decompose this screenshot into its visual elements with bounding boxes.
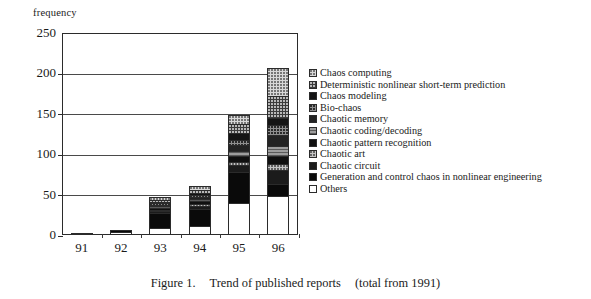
legend-item[interactable]: Chaotic circuit bbox=[309, 160, 587, 172]
x-axis-tickmark-96 bbox=[299, 234, 300, 238]
x-axis-tick-labels: 919293949596 bbox=[62, 240, 298, 262]
y-axis-tick-0: 0 bbox=[22, 228, 56, 241]
legend-swatch-icon bbox=[309, 127, 317, 135]
caption-label: Figure 1. bbox=[151, 276, 196, 290]
legend-item-label: Generation and control chaos in nonlinea… bbox=[320, 171, 542, 183]
legend-item-label: Chaotic coding/decoding bbox=[320, 125, 422, 137]
y-axis-tick-labels: 050100150200250 bbox=[20, 33, 56, 235]
legend-swatch-icon bbox=[309, 81, 317, 89]
legend-item[interactable]: Chaotic coding/decoding bbox=[309, 125, 587, 137]
legend-item-label: Chaotic pattern recognition bbox=[320, 137, 431, 149]
bar-segment bbox=[268, 157, 288, 166]
legend-item[interactable]: Bio-chaos bbox=[309, 102, 587, 114]
bar-segment bbox=[229, 173, 249, 204]
bar-segment bbox=[268, 185, 288, 197]
x-axis-tick-94: 94 bbox=[180, 240, 220, 255]
legend-swatch-icon bbox=[309, 185, 317, 193]
x-axis-tick-92: 92 bbox=[101, 240, 141, 255]
y-axis-label: frequency bbox=[33, 7, 77, 18]
legend-item-label: Chaos modeling bbox=[320, 90, 387, 102]
legend-item-label: Chaos computing bbox=[320, 67, 392, 79]
x-axis-tick-95: 95 bbox=[219, 240, 259, 255]
bar-segment bbox=[268, 69, 288, 97]
bar-segment bbox=[229, 125, 249, 133]
x-axis-tick-91: 91 bbox=[62, 240, 102, 255]
legend-swatch-icon bbox=[309, 139, 317, 147]
bar-segment bbox=[268, 147, 288, 156]
bar-segment bbox=[150, 214, 170, 229]
bar-segment bbox=[268, 136, 288, 148]
legend-swatch-icon bbox=[309, 162, 317, 170]
bar-91[interactable] bbox=[71, 233, 93, 236]
y-axis-tick-100: 100 bbox=[22, 147, 56, 160]
bar-segment bbox=[268, 171, 288, 186]
bar-segment bbox=[268, 119, 288, 126]
y-axis-tick-250: 250 bbox=[22, 26, 56, 39]
caption-title: Trend of published reports bbox=[210, 276, 341, 290]
bar-segment bbox=[268, 97, 288, 119]
legend-swatch-icon bbox=[309, 173, 317, 181]
bar-segment bbox=[229, 204, 249, 234]
legend-item[interactable]: Chaotic pattern recognition bbox=[309, 137, 587, 149]
legend-item[interactable]: Generation and control chaos in nonlinea… bbox=[309, 171, 587, 183]
figure-chart: frequency 050100150200250 919293949596 C… bbox=[0, 0, 591, 299]
bar-segment bbox=[229, 116, 249, 125]
bar-segment bbox=[111, 233, 131, 234]
bars-layer bbox=[62, 33, 298, 235]
legend-item-label: Others bbox=[320, 183, 347, 195]
bar-93[interactable] bbox=[149, 197, 171, 235]
bar-segment bbox=[72, 234, 92, 235]
legend-item-label: Bio-chaos bbox=[320, 102, 361, 114]
legend-swatch-icon bbox=[309, 104, 317, 112]
bar-94[interactable] bbox=[189, 186, 211, 235]
bar-segment bbox=[268, 126, 288, 136]
bar-segment bbox=[229, 166, 249, 174]
bar-92[interactable] bbox=[110, 230, 132, 235]
legend-item-label: Chaotic circuit bbox=[320, 160, 380, 172]
y-axis-tickmark-0 bbox=[58, 236, 63, 237]
y-axis-tick-50: 50 bbox=[22, 188, 56, 201]
x-axis-tick-93: 93 bbox=[140, 240, 180, 255]
legend-swatch-icon bbox=[309, 92, 317, 100]
figure-caption: Figure 1.Trend of published reports(tota… bbox=[0, 276, 591, 291]
bar-segment bbox=[150, 229, 170, 234]
legend-item[interactable]: Chaotic art bbox=[309, 148, 587, 160]
legend-item-label: Chaotic art bbox=[320, 148, 365, 160]
legend-item[interactable]: Chaos computing bbox=[309, 67, 587, 79]
legend-item-label: Chaotic memory bbox=[320, 113, 388, 125]
caption-note: (total from 1991) bbox=[355, 276, 440, 290]
legend-swatch-icon bbox=[309, 69, 317, 77]
legend-item[interactable]: Chaos modeling bbox=[309, 90, 587, 102]
bar-95[interactable] bbox=[228, 115, 250, 235]
legend-swatch-icon bbox=[309, 150, 317, 158]
chart-legend: Chaos computingDeterministic nonlinear s… bbox=[309, 67, 587, 195]
legend-item[interactable]: Deterministic nonlinear short-term predi… bbox=[309, 79, 587, 91]
y-axis-tick-150: 150 bbox=[22, 107, 56, 120]
legend-swatch-icon bbox=[309, 115, 317, 123]
bar-segment bbox=[190, 210, 210, 227]
y-axis-tick-200: 200 bbox=[22, 66, 56, 79]
x-axis-tick-96: 96 bbox=[258, 240, 298, 255]
legend-item[interactable]: Chaotic memory bbox=[309, 113, 587, 125]
legend-item-label: Deterministic nonlinear short-term predi… bbox=[320, 79, 505, 91]
bar-96[interactable] bbox=[267, 68, 289, 235]
bar-segment bbox=[229, 134, 249, 141]
legend-item[interactable]: Others bbox=[309, 183, 587, 195]
bar-segment bbox=[190, 227, 210, 234]
bar-segment bbox=[268, 197, 288, 235]
